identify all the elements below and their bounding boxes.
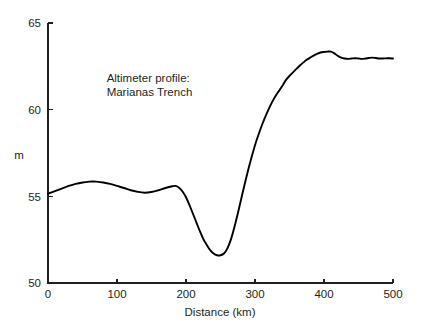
profile-annotation-line-1: Altimeter profile: bbox=[107, 72, 190, 84]
x-axis-title: Distance (km) bbox=[185, 306, 256, 318]
chart-annotations: Altimeter profile:Marianas Trench bbox=[107, 72, 193, 99]
x-axis-ticks bbox=[48, 279, 393, 284]
y-tick-label-65: 65 bbox=[28, 17, 41, 29]
x-tick-label-100: 100 bbox=[107, 288, 126, 300]
x-tick-label-300: 300 bbox=[245, 288, 264, 300]
y-tick-label-50: 50 bbox=[28, 277, 41, 289]
x-tick-label-400: 400 bbox=[314, 288, 333, 300]
profile-annotation-line-2: Marianas Trench bbox=[107, 86, 193, 98]
x-tick-label-200: 200 bbox=[176, 288, 195, 300]
altimeter-profile-chart: 0100200300400500 50556065 Distance (km) … bbox=[0, 0, 421, 325]
y-tick-label-55: 55 bbox=[28, 191, 41, 203]
y-tick-label-60: 60 bbox=[28, 104, 41, 116]
y-axis-title: m bbox=[14, 149, 24, 161]
altimeter-profile-line bbox=[48, 51, 393, 255]
y-axis-ticks bbox=[48, 23, 53, 283]
y-axis-tick-labels: 50556065 bbox=[28, 17, 41, 289]
x-tick-label-0: 0 bbox=[45, 288, 51, 300]
chart-figure: 0100200300400500 50556065 Distance (km) … bbox=[0, 0, 421, 325]
axis-frame bbox=[48, 23, 393, 283]
x-axis-tick-labels: 0100200300400500 bbox=[45, 288, 403, 300]
axes-group bbox=[48, 23, 393, 283]
x-tick-label-500: 500 bbox=[383, 288, 402, 300]
